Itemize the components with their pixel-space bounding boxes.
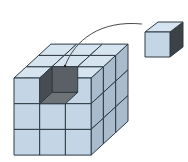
cube-front-face-cell — [65, 129, 91, 155]
diagram-canvas — [0, 0, 188, 162]
cube-front-face-cell — [65, 104, 91, 130]
cube-diagram — [0, 0, 188, 162]
hole-back-wall — [52, 67, 78, 93]
cube-front-face-cell — [40, 104, 66, 130]
cube-front-face-cell — [40, 129, 66, 155]
cube-front-face-cell — [14, 78, 40, 104]
cube-front-face-cell — [14, 129, 40, 155]
small-cube-front-face — [145, 32, 170, 57]
arc-start-dot — [64, 65, 66, 67]
cube-front-face-cell — [14, 104, 40, 130]
